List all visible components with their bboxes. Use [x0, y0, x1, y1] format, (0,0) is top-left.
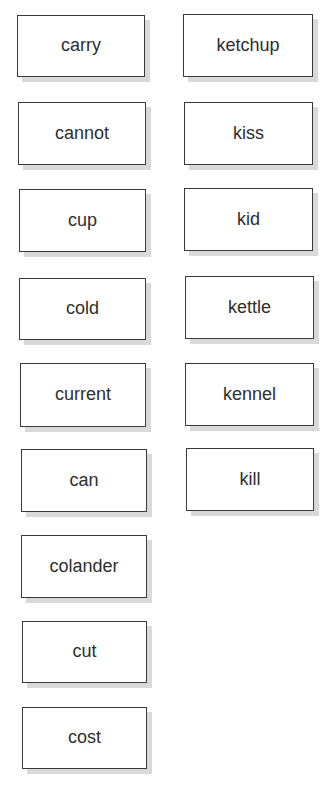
word-card[interactable]: cold [19, 278, 146, 340]
word-card-label: kennel [223, 385, 276, 405]
word-card-label: cut [72, 642, 96, 662]
word-card[interactable]: kiss [184, 102, 313, 165]
word-card-label: kill [240, 470, 261, 490]
word-card-label: kettle [228, 298, 271, 318]
word-card[interactable]: carry [17, 15, 145, 77]
word-card[interactable]: kennel [185, 363, 314, 426]
word-card[interactable]: can [21, 449, 147, 512]
word-card-label: cup [68, 211, 97, 231]
word-card-label: kiss [233, 124, 264, 144]
word-card-label: colander [49, 557, 118, 577]
word-card-label: carry [61, 36, 101, 56]
word-card[interactable]: kill [186, 448, 314, 511]
word-card-label: cannot [55, 124, 109, 144]
word-card[interactable]: kettle [185, 276, 314, 339]
word-card-label: cost [68, 728, 101, 748]
word-card[interactable]: colander [21, 535, 147, 598]
word-card-label: kid [237, 210, 260, 230]
word-card[interactable]: current [20, 363, 146, 427]
word-card-label: cold [66, 299, 99, 319]
word-card-label: ketchup [216, 36, 279, 56]
word-card[interactable]: cannot [18, 102, 146, 165]
word-card[interactable]: cut [22, 621, 147, 683]
word-card[interactable]: cup [19, 189, 146, 252]
word-card[interactable]: kid [184, 188, 313, 251]
word-card-label: can [69, 471, 98, 491]
word-card-label: current [55, 385, 111, 405]
word-card[interactable]: ketchup [183, 14, 313, 77]
word-card[interactable]: cost [22, 707, 147, 769]
